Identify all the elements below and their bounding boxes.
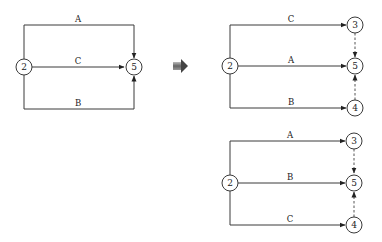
edge-label-b: B: [288, 97, 294, 107]
node-3-label: 3: [352, 20, 358, 30]
node-4-label: 4: [351, 220, 357, 230]
edge-label-b: B: [287, 172, 293, 182]
node-3-label: 3: [351, 136, 357, 146]
variant-1-network: C A B 2 3 5 4: [222, 14, 363, 116]
node-2-label: 2: [21, 62, 27, 72]
original-network: A C B 2 5: [16, 14, 142, 109]
node-2-label: 2: [227, 61, 233, 71]
edge-label-a: A: [74, 14, 82, 24]
edge-c: [230, 25, 346, 58]
edge-label-a: A: [287, 55, 295, 65]
edge-label-c: C: [287, 214, 294, 224]
node-5-label: 5: [352, 61, 358, 71]
edge-label-a: A: [286, 130, 294, 140]
edge-label-c: C: [75, 56, 82, 66]
edge-label-c: C: [288, 14, 295, 24]
node-5-label: 5: [131, 62, 137, 72]
node-5-label: 5: [351, 178, 357, 188]
right-arrow-icon: [173, 59, 188, 73]
edge-a: [24, 25, 134, 60]
variant-2-network: A B C 2 3 5 4: [222, 130, 362, 233]
edge-label-b: B: [75, 98, 81, 108]
edge-a: [230, 141, 345, 175]
network-diagram: A C B 2 5 C A B 2 3 5 4 A B: [0, 0, 382, 242]
node-4-label: 4: [352, 103, 358, 113]
node-2-label: 2: [227, 178, 233, 188]
